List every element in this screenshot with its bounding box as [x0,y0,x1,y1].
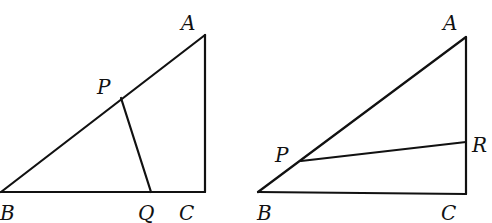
vertex-label-B-right: B [256,201,272,223]
triangle-figure-left: A B C P Q [0,11,205,223]
vertex-label-A-left: A [179,11,195,35]
segment-PR-right [301,142,466,161]
segment-AB-right [258,37,466,192]
vertex-label-C-left: C [179,201,194,223]
vertex-label-B-left: B [0,201,15,223]
segment-AB-left [1,35,205,192]
vertex-label-A-right: A [441,11,457,35]
point-label-R-right: R [471,133,487,157]
point-label-P-left: P [96,75,111,99]
point-label-Q-left: Q [138,201,154,223]
vertex-label-C-right: C [441,201,456,223]
triangle-figure-right: A B C P R [256,11,487,223]
segment-BC-right [258,192,466,194]
geometry-diagram: A B C P Q A B C P R [0,0,492,223]
point-label-P-right: P [274,143,289,167]
segment-PQ-left [121,98,151,192]
